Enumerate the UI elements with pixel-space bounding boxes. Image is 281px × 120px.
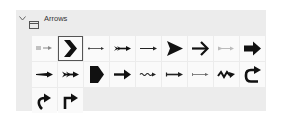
feathered-arrow-icon bbox=[112, 38, 133, 59]
shape-pentagon-arrow[interactable] bbox=[84, 62, 109, 87]
shape-tail-arrow[interactable] bbox=[162, 62, 187, 87]
shape-block-arrow[interactable] bbox=[240, 36, 265, 61]
category-title: Arrows bbox=[44, 14, 67, 23]
folder-icon bbox=[29, 15, 39, 23]
shape-tapered-arrow[interactable] bbox=[32, 62, 57, 87]
shape-library-panel: Arrows bbox=[16, 10, 266, 111]
shape-dashed-arrow[interactable] bbox=[32, 36, 57, 61]
block-arrow-icon bbox=[242, 38, 263, 59]
shape-notched-triangle-arrow[interactable] bbox=[162, 36, 187, 61]
chevron-arrow-icon bbox=[60, 38, 81, 59]
shape-bold-line-arrow[interactable] bbox=[110, 62, 135, 87]
shape-thin-arrow[interactable] bbox=[136, 36, 161, 61]
bold-line-arrow-icon bbox=[112, 64, 133, 85]
thin-dotted-arrow-icon bbox=[86, 38, 107, 59]
pentagon-arrow-icon bbox=[86, 64, 107, 85]
shape-bent-up-right-arrow[interactable] bbox=[58, 88, 83, 113]
curved-up-right-arrow-icon bbox=[34, 90, 55, 111]
zigzag-arrow-icon bbox=[216, 64, 237, 85]
shape-thin-dotted-arrow[interactable] bbox=[84, 36, 109, 61]
tapered-arrow-icon bbox=[34, 64, 55, 85]
shape-dotted-tail-arrow[interactable] bbox=[188, 62, 213, 87]
notched-triangle-arrow-icon bbox=[164, 38, 185, 59]
shape-light-gray-arrow[interactable] bbox=[214, 36, 239, 61]
tail-arrow-icon bbox=[164, 64, 185, 85]
chevron-down-icon[interactable] bbox=[19, 15, 26, 22]
shape-open-bold-arrow[interactable] bbox=[188, 36, 213, 61]
category-header[interactable]: Arrows bbox=[16, 10, 266, 27]
u-turn-arrow-icon bbox=[242, 64, 263, 85]
dotted-tail-arrow-icon bbox=[190, 64, 211, 85]
shape-double-feather-arrow[interactable] bbox=[58, 62, 83, 87]
wavy-arrow-icon bbox=[138, 64, 159, 85]
bent-up-right-arrow-icon bbox=[60, 90, 81, 111]
thin-arrow-icon bbox=[138, 38, 159, 59]
open-bold-arrow-icon bbox=[190, 38, 211, 59]
light-gray-arrow-icon bbox=[216, 38, 237, 59]
shape-u-turn-arrow[interactable] bbox=[240, 62, 265, 87]
shape-wavy-arrow[interactable] bbox=[136, 62, 161, 87]
double-feather-arrow-icon bbox=[60, 64, 81, 85]
shape-chevron-arrow[interactable] bbox=[58, 36, 83, 61]
dashed-arrow-icon bbox=[34, 38, 55, 59]
shape-zigzag-arrow[interactable] bbox=[214, 62, 239, 87]
shape-feathered-arrow[interactable] bbox=[110, 36, 135, 61]
shape-grid bbox=[32, 36, 265, 113]
shape-curved-up-right-arrow[interactable] bbox=[32, 88, 57, 113]
